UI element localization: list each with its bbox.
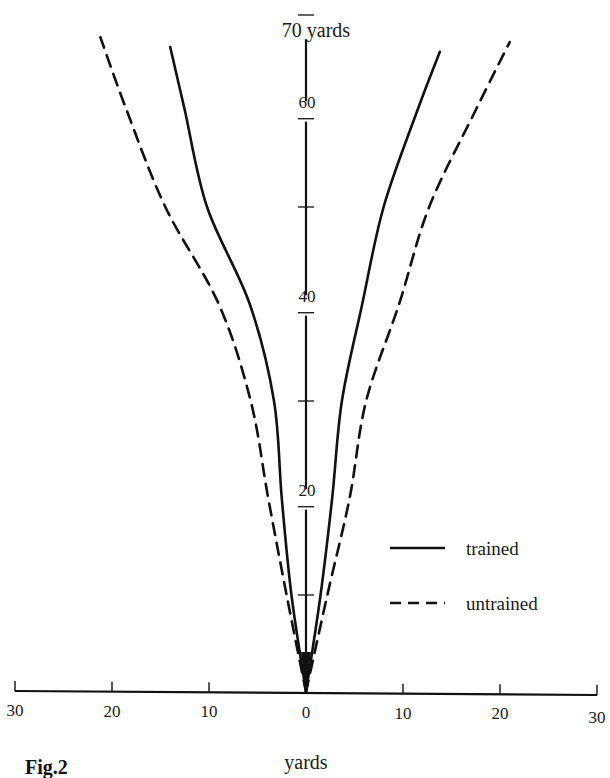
x-tick-label: 20	[104, 702, 121, 721]
y-tick-label: 60	[299, 93, 316, 112]
legend-label-untrained: untrained	[466, 593, 538, 614]
x-tick-label: 10	[395, 704, 412, 723]
y-tick-label: 40	[299, 287, 316, 306]
trained-left-curve	[170, 47, 306, 692]
axes: 3020100102030204060	[7, 15, 606, 727]
x-tick-label: 30	[7, 701, 24, 720]
x-tick-label: 20	[492, 704, 509, 723]
y-tick-label: 20	[299, 481, 316, 500]
trained-right-curve	[306, 52, 440, 692]
x-tick-label: 10	[201, 702, 218, 721]
x-axis-title: yards	[284, 751, 328, 774]
legend-label-trained: trained	[466, 538, 519, 559]
figure-caption: Fig.2	[25, 757, 68, 777]
untrained-left-curve	[100, 37, 306, 692]
legend: trained untrained	[390, 538, 538, 614]
x-tick-label: 0	[302, 703, 311, 722]
x-tick-label: 30	[589, 708, 606, 727]
y-axis-top-label: 70 yards	[282, 19, 351, 42]
